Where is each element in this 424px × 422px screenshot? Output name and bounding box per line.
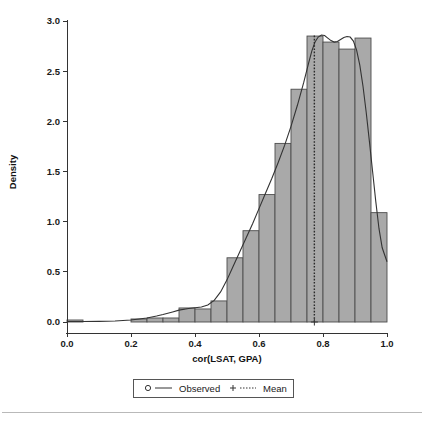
histogram-bar (211, 301, 227, 322)
y-axis-tick-label: 2.5 (47, 66, 61, 77)
density-histogram-chart: 0.00.51.01.52.02.53.0 0.00.20.40.60.81.0… (0, 0, 424, 422)
x-axis-title: cor(LSAT, GPA) (192, 353, 261, 364)
histogram-bar (195, 309, 211, 322)
legend-label-mean: Mean (263, 383, 287, 394)
histogram-figure: 0.00.51.01.52.02.53.0 0.00.20.40.60.81.0… (0, 0, 424, 422)
y-axis-tick-label: 1.0 (47, 216, 60, 227)
legend-label-observed: Observed (179, 383, 220, 394)
x-axis-tick-label: 0.6 (252, 338, 265, 349)
y-axis-tick-label: 3.0 (47, 15, 60, 26)
histogram-bar (147, 318, 163, 322)
histogram-bar (163, 318, 179, 322)
histogram-bar (355, 38, 371, 322)
histogram-bar (243, 231, 259, 322)
y-axis-tick-label: 0.5 (47, 266, 61, 277)
x-axis-tick-label: 0.2 (124, 338, 137, 349)
histogram-bar (227, 258, 243, 322)
x-axis-tick-label: 0.4 (188, 338, 202, 349)
histogram-bar (291, 89, 307, 322)
histogram-bar (259, 195, 275, 322)
histogram-bar (339, 49, 355, 322)
histogram-bar (323, 42, 339, 322)
x-axis-tick-label: 0.0 (60, 338, 73, 349)
x-axis-tick-label: 1.0 (380, 338, 393, 349)
y-axis-tick-label: 1.5 (47, 166, 61, 177)
x-axis-tick-label: 0.8 (316, 338, 329, 349)
histogram-bar (275, 143, 291, 322)
chart-legend[interactable]: Observed Mean (133, 379, 293, 397)
y-axis-title: Density (7, 154, 18, 189)
y-axis-tick-label: 2.0 (47, 116, 60, 127)
y-axis-tick-label: 0.0 (47, 316, 60, 327)
